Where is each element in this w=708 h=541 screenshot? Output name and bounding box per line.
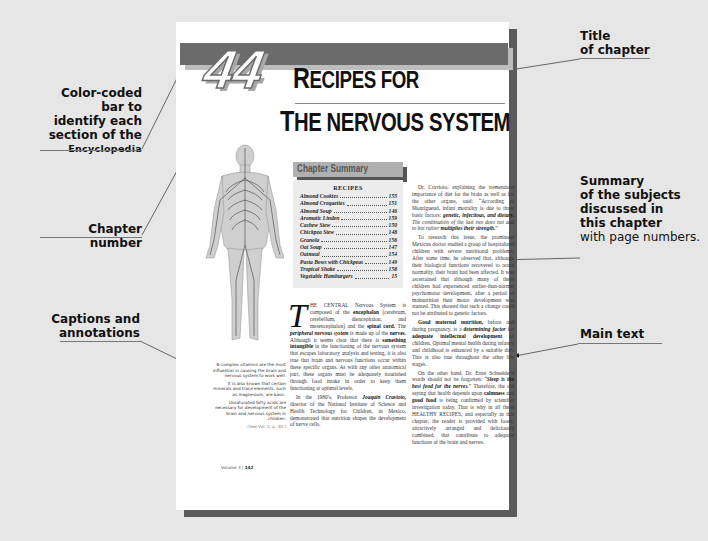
callout-captions: Captions and annotations xyxy=(40,312,140,340)
cross-reference: (See Vol. 2, p. 30.) xyxy=(210,424,286,430)
page-footer: Volume 3 | 142 xyxy=(221,465,253,470)
recipe-entry: Oat Soup147 xyxy=(293,244,403,251)
recipe-name: Pasta Bows with Chickpeas xyxy=(300,259,363,266)
callout-line: discussed in xyxy=(580,202,700,216)
paragraph: On the other hand, Dr. Ernst Schneider's… xyxy=(412,370,514,446)
recipe-name: Cashew Stew xyxy=(300,222,330,229)
recipe-page: 146 xyxy=(389,208,397,215)
callout-rule xyxy=(40,150,142,151)
page-number: 142 xyxy=(245,465,254,470)
recipe-page: 158 xyxy=(389,266,397,273)
callout-rule xyxy=(580,58,650,59)
recipe-entry: Almond Croquettes151 xyxy=(293,200,403,207)
recipe-page: 154 xyxy=(389,251,397,258)
title-text: HE NERVOUS SYSTEM xyxy=(294,107,510,137)
callout-line: this chapter xyxy=(580,216,700,230)
bold-term: Good maternal nutrition, xyxy=(418,319,483,325)
callout-line: Color-coded bar to xyxy=(38,86,142,114)
paragraph: Good maternal nutrition, before and duri… xyxy=(412,319,514,367)
text-run: and xyxy=(505,390,514,396)
bold-term: spinal cord. xyxy=(367,323,395,329)
paragraph: In the 1980's, Professor Joaquin Craviot… xyxy=(290,394,406,429)
recipe-entry: Tropical Shake158 xyxy=(293,266,403,273)
annotation-paragraph: Unsaturated fatty acids are necessary fo… xyxy=(210,400,286,422)
text-run: ” xyxy=(495,225,497,231)
callout-summary: Summary of the subjects discussed in thi… xyxy=(580,174,700,244)
recipe-name: Almond Croquettes xyxy=(300,200,345,207)
recipe-page: 150 xyxy=(389,222,397,229)
volume-label: Volume 3 | xyxy=(221,465,245,470)
recipe-entry: Granola156 xyxy=(293,237,403,244)
bold-term: Joaquin Cravioto, xyxy=(362,394,406,400)
callout-line: of chapter xyxy=(580,43,650,57)
annotation-paragraph: B-complex vitamins are the most influent… xyxy=(210,362,286,379)
recipe-page: 151 xyxy=(389,200,397,207)
callout-line: Summary xyxy=(580,174,700,188)
callout-line: section of the xyxy=(38,128,142,142)
recipe-entry: Almond Soup146 xyxy=(293,208,403,215)
nervous-system-illustration xyxy=(200,140,290,345)
recipe-entry: Vegetable Hamburgers15 xyxy=(293,273,403,280)
paragraph: Dr. Cravioto, explaining the tremendous … xyxy=(412,184,514,232)
bold-term: peripheral nervous system xyxy=(290,330,349,336)
main-text-column-1: THE CENTRAL Nervous System is composed o… xyxy=(290,302,406,430)
callout-line: annotations xyxy=(40,326,140,340)
callout-line: Captions and xyxy=(40,312,140,326)
callout-rule xyxy=(40,237,142,238)
callout-line: identify each xyxy=(38,114,142,128)
recipe-entry: Pasta Bows with Chickpeas149 xyxy=(293,259,403,266)
paragraph: THE CENTRAL Nervous System is composed o… xyxy=(290,302,406,392)
callout-title: Title of chapter xyxy=(580,29,650,57)
title-initial: R xyxy=(293,61,310,94)
bold-term: multiplies their strength. xyxy=(441,225,496,231)
recipe-page: 147 xyxy=(389,244,397,251)
callout-line: of the subjects xyxy=(580,188,700,202)
recipe-entry: Aromatic Linden159 xyxy=(293,215,403,222)
text-run: Although it seems clear that there is xyxy=(290,337,382,343)
bold-term: nerves. xyxy=(390,330,406,336)
title-initial: T xyxy=(280,104,294,137)
recipe-name: Almond Soup xyxy=(300,208,332,215)
drop-cap: T xyxy=(288,303,307,329)
recipe-name: Oatmeal xyxy=(300,251,320,258)
recipe-entry: Cashew Stew150 xyxy=(293,222,403,229)
callout-color-bar: Color-coded bar to identify each section… xyxy=(38,86,142,156)
bold-term: determining factor xyxy=(464,326,506,332)
callout-rule xyxy=(578,343,662,344)
chapter-number: 44 xyxy=(200,38,267,100)
chapter-summary-header: Chapter Summary xyxy=(293,162,403,177)
bold-term: encephalon xyxy=(353,309,379,315)
recipe-name: Vegetable Hamburgers xyxy=(300,273,353,280)
recipe-page: 15 xyxy=(391,273,397,280)
recipe-name: Tropical Shake xyxy=(300,266,335,273)
callout-chapter-number: Chapter number xyxy=(36,222,142,250)
annotation-paragraph: It is also known that certain minerals a… xyxy=(210,381,286,398)
text-run: in the functioning of the nervous system… xyxy=(290,343,406,390)
recipe-page: 156 xyxy=(389,237,397,244)
paragraph: To research this issue, the prominent Me… xyxy=(412,234,514,317)
text-run: In the 1980's, Professor xyxy=(296,394,362,400)
chapter-title-line-1: RECIPES FOR xyxy=(293,61,419,95)
recipe-page: 159 xyxy=(389,215,397,222)
main-text-column-2: Dr. Cravioto, explaining the tremendous … xyxy=(412,184,514,448)
text-run: The xyxy=(395,323,406,329)
bold-term: good food xyxy=(412,397,436,403)
title-text: ECIPES FOR xyxy=(310,66,419,93)
text-run: for xyxy=(506,326,514,332)
chapter-summary-box: RECIPES Almond Cookies155 Almond Croquet… xyxy=(293,180,403,288)
chapter-title-line-2: THE NERVOUS SYSTEM xyxy=(280,104,510,138)
recipe-name: Oat Soup xyxy=(300,244,322,251)
bold-term: calmness xyxy=(484,390,505,396)
text-run: is made up of the xyxy=(349,330,390,336)
callout-main-text: Main text xyxy=(580,327,644,341)
callout-line: Encyclopedia xyxy=(38,142,142,156)
recipe-entry: Chickpea Stew148 xyxy=(293,229,403,236)
recipe-name: Granola xyxy=(300,237,319,244)
bold-term: genetic, infectious, and dietary. xyxy=(443,212,514,218)
callout-line: with page numbers. xyxy=(580,230,700,244)
recipes-subheader: RECIPES xyxy=(293,185,403,191)
recipe-entry: Oatmeal154 xyxy=(293,251,403,258)
recipe-entry: Almond Cookies155 xyxy=(293,193,403,200)
recipe-name: Aromatic Linden xyxy=(300,215,339,222)
recipe-page: 155 xyxy=(389,193,397,200)
